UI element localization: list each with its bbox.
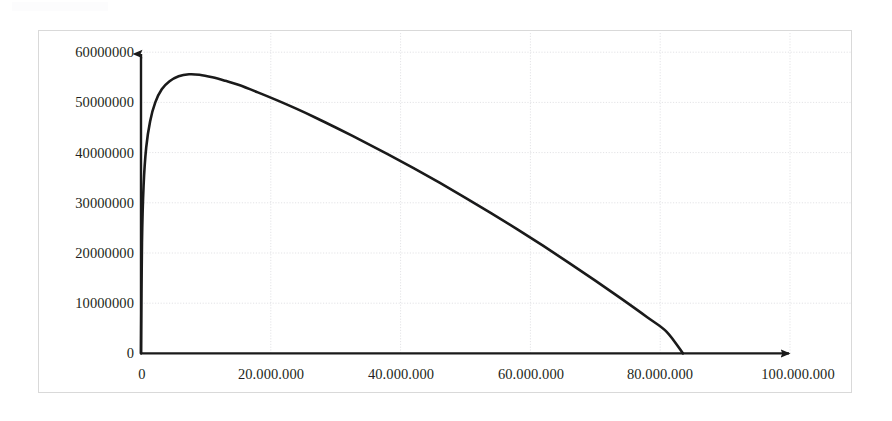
y-tick-label-10000000: 10000000 <box>42 295 134 312</box>
chart-frame <box>38 30 852 393</box>
x-tick-label-0: 0 <box>138 366 145 383</box>
x-tick-label-100000000: 100.000.000 <box>761 366 835 383</box>
y-tick-label-40000000: 40000000 <box>42 145 134 162</box>
x-tick-label-40000000: 40.000.000 <box>368 366 434 383</box>
x-tick-label-80000000: 80.000.000 <box>627 366 693 383</box>
x-tick-label-20000000: 20.000.000 <box>238 366 304 383</box>
y-tick-label-0: 0 <box>42 345 134 362</box>
y-tick-label-30000000: 30000000 <box>42 195 134 212</box>
scan-artifact <box>12 2 108 11</box>
y-tick-label-60000000: 60000000 <box>42 44 134 61</box>
y-tick-label-50000000: 50000000 <box>42 94 134 111</box>
x-tick-label-60000000: 60.000.000 <box>498 366 564 383</box>
y-tick-label-20000000: 20000000 <box>42 245 134 262</box>
